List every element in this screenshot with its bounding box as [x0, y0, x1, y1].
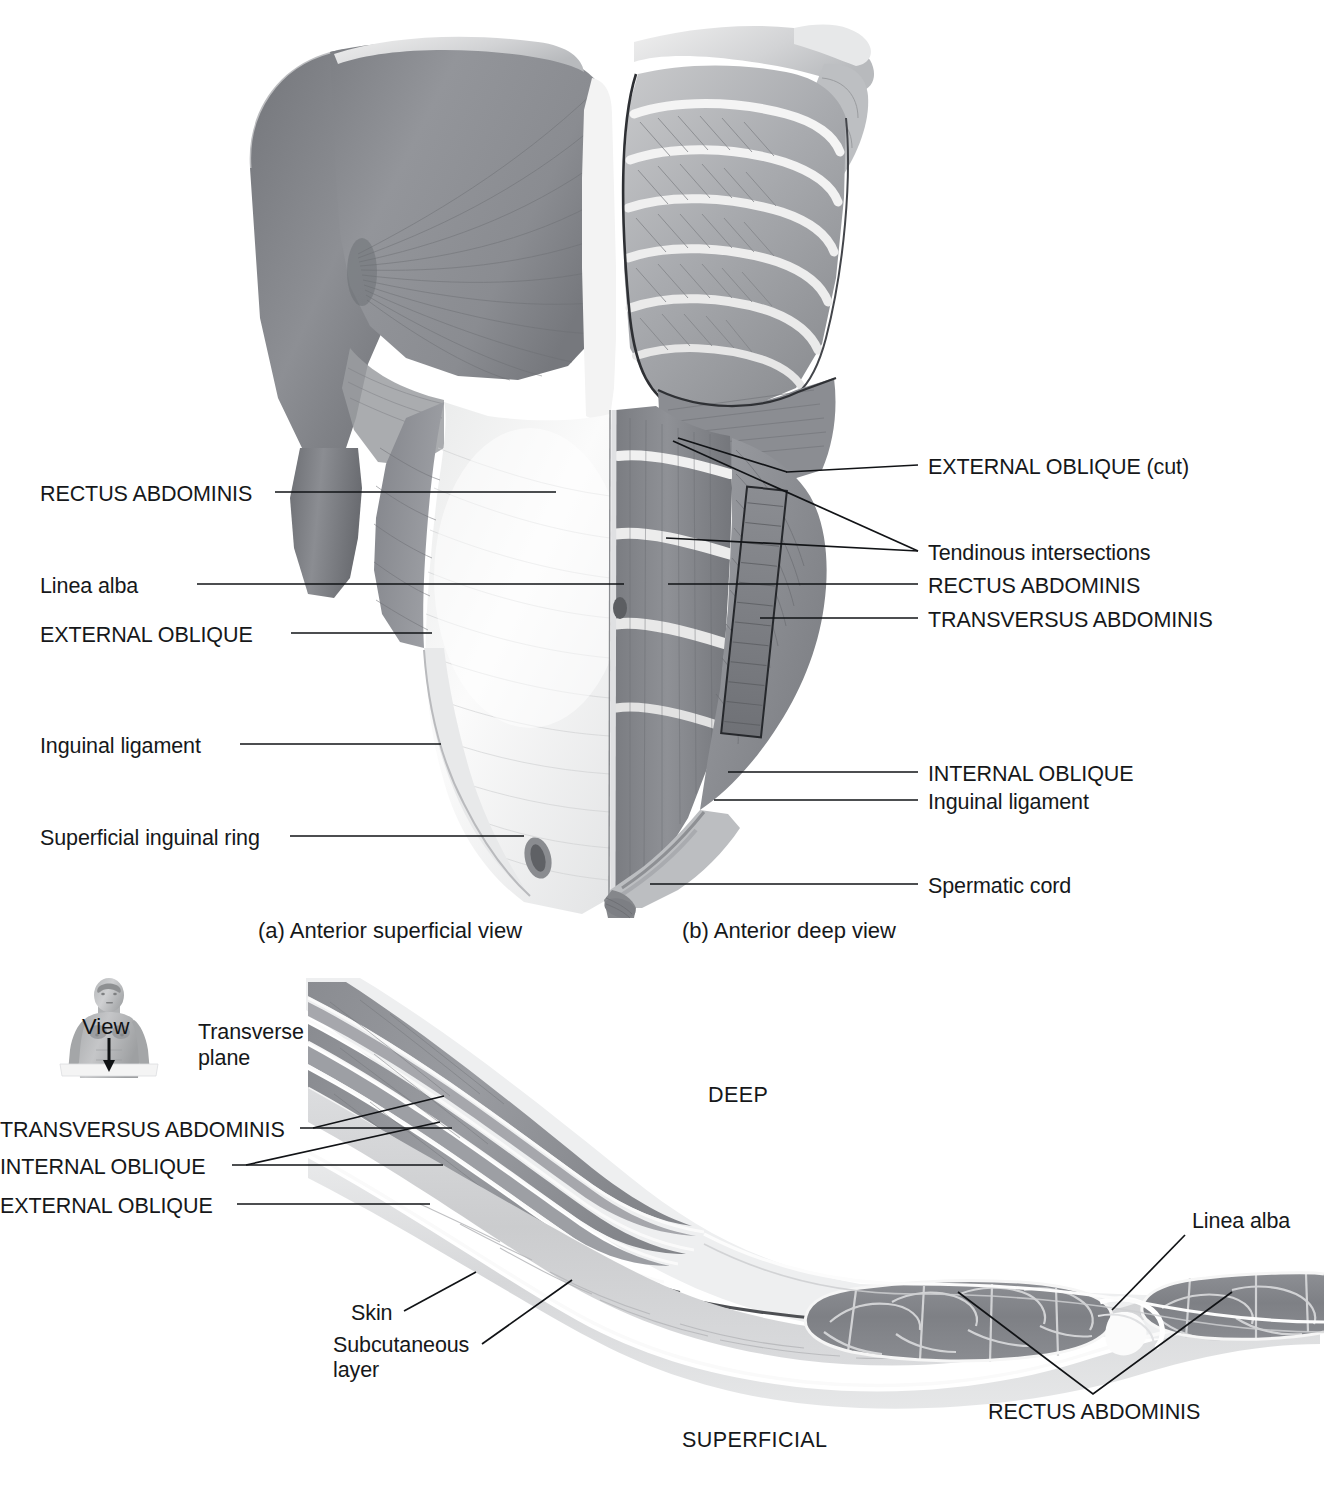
label-internal-oblique-c: INTERNAL OBLIQUE — [0, 1154, 206, 1180]
label-rectus-abdominis-a: RECTUS ABDOMINIS — [40, 481, 252, 507]
label-transversus-abdominis-c: TRANSVERSUS ABDOMINIS — [0, 1117, 285, 1143]
anterior-trunk-illustration — [238, 18, 898, 918]
label-linea-alba-a: Linea alba — [40, 573, 138, 599]
linea-alba-edge — [613, 410, 614, 898]
orientation-inset: View — [38, 980, 198, 1095]
upper-arm-muscle — [290, 448, 362, 598]
caption-panel-a: (a) Anterior superficial view — [258, 918, 522, 944]
label-linea-alba-c: Linea alba — [1192, 1208, 1290, 1234]
aponeurosis-highlight — [434, 428, 626, 728]
caption-panel-b: (b) Anterior deep view — [682, 918, 896, 944]
label-subcutaneous-layer: Subcutaneous layer — [333, 1333, 469, 1384]
label-transverse-plane: Transverse plane — [198, 1020, 318, 1072]
transverse-plane-line1: Transverse — [198, 1020, 304, 1044]
label-external-oblique-a: EXTERNAL OBLIQUE — [40, 622, 253, 648]
label-external-oblique-cut: EXTERNAL OBLIQUE (cut) — [928, 454, 1189, 480]
label-inguinal-ligament-a: Inguinal ligament — [40, 733, 201, 759]
label-spermatic-cord: Spermatic cord — [928, 873, 1071, 899]
label-inguinal-ligament-b: Inguinal ligament — [928, 789, 1089, 815]
label-superficial-inguinal-ring: Superficial inguinal ring — [40, 825, 260, 851]
anterior-trunk-svg — [238, 18, 898, 918]
inset-head — [94, 978, 124, 1012]
label-internal-oblique-b: INTERNAL OBLIQUE — [928, 761, 1134, 787]
ribcage-intercostals — [624, 65, 846, 408]
label-rectus-abdominis-c: RECTUS ABDOMINIS — [988, 1399, 1200, 1425]
sternum-band — [582, 78, 616, 422]
linea-alba-groove — [609, 410, 610, 898]
transverse-plane-line2: plane — [198, 1046, 250, 1070]
pectoralis-insertion-shadow — [347, 238, 377, 306]
subcutaneous-layer-line1: Subcutaneous — [333, 1333, 469, 1357]
label-skin: Skin — [351, 1300, 392, 1326]
subcutaneous-layer-line2: layer — [333, 1358, 379, 1382]
label-external-oblique-c: EXTERNAL OBLIQUE — [0, 1193, 213, 1219]
orientation-label-deep: DEEP — [708, 1083, 768, 1108]
label-transversus-abdominis-b: TRANSVERSUS ABDOMINIS — [928, 607, 1213, 633]
view-label: View — [82, 1014, 129, 1040]
umbilicus — [613, 597, 627, 619]
label-rectus-abdominis-b: RECTUS ABDOMINIS — [928, 573, 1140, 599]
orientation-label-superficial: SUPERFICIAL — [682, 1428, 827, 1453]
label-tendinous-intersections: Tendinous intersections — [928, 540, 1150, 566]
figure-page: View — [0, 0, 1324, 1490]
